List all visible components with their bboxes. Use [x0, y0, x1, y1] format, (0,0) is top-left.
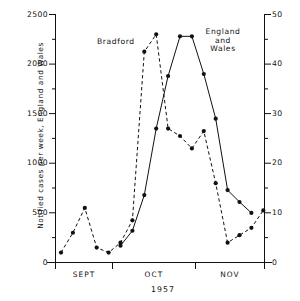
data-point [142, 50, 146, 54]
data-point [83, 206, 87, 210]
data-point [142, 193, 146, 197]
data-point [202, 129, 206, 133]
series-layer [59, 32, 266, 254]
data-point [214, 117, 218, 121]
data-point [59, 250, 63, 254]
data-point [202, 72, 206, 76]
series-line-bradford [61, 34, 263, 252]
data-point [214, 181, 218, 185]
data-point [249, 226, 253, 230]
data-point [166, 126, 170, 130]
data-point [249, 211, 253, 215]
data-point [130, 229, 134, 233]
axis-ticks [49, 15, 271, 270]
data-point [154, 32, 158, 36]
plot-area [0, 0, 300, 301]
data-point [178, 134, 182, 138]
data-point [226, 188, 230, 192]
data-point [166, 74, 170, 78]
data-point [71, 231, 75, 235]
series-markers-england-wales [118, 34, 253, 248]
chart-figure: Notified cases per week, England and Wal… [0, 0, 300, 301]
data-point [118, 244, 122, 248]
series-markers-bradford [59, 32, 266, 254]
data-point [261, 208, 265, 212]
data-point [154, 126, 158, 130]
data-point [178, 34, 182, 38]
data-point [190, 34, 194, 38]
data-point [190, 146, 194, 150]
data-point [130, 218, 134, 222]
data-point [226, 241, 230, 245]
data-point [107, 250, 111, 254]
data-point [237, 200, 241, 204]
data-point [237, 233, 241, 237]
data-point [95, 246, 99, 250]
series-line-england-wales [121, 36, 252, 245]
